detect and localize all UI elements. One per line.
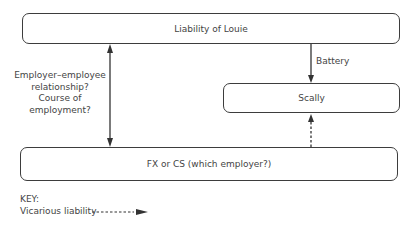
key-title: KEY: [20,194,39,206]
key-dashed-arrow-icon [92,209,148,215]
battery-arrow-icon [308,44,314,83]
vicarious-arrow-icon [308,114,314,147]
double-arrow-icon [107,44,113,147]
battery-label: Battery [316,56,349,68]
key-vicarious-label: Vicarious liability [20,206,96,218]
employment-relationship-label: Employer–employee relationship? Course o… [14,70,106,116]
